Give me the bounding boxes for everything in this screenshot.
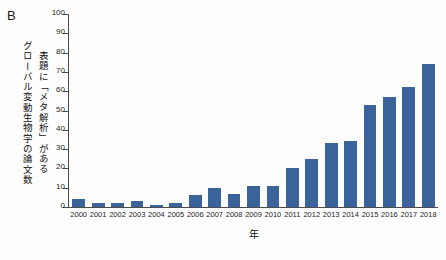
x-tick-label: 2014: [341, 210, 360, 219]
bar: [111, 203, 124, 207]
bar: [247, 186, 260, 207]
bar-slot: [224, 14, 243, 207]
bar: [422, 64, 435, 207]
x-tick-label: 2016: [380, 210, 399, 219]
bar-series: [69, 14, 438, 207]
y-tick-label: 0: [43, 201, 65, 210]
y-tick: 0: [68, 207, 69, 208]
bar-slot: [360, 14, 379, 207]
bar: [344, 141, 357, 207]
bar: [228, 194, 241, 208]
plot-area: 0102030405060708090100: [68, 14, 438, 208]
x-tick-label: 2001: [88, 210, 107, 219]
bar-slot: [419, 14, 438, 207]
y-axis-title-line-2: グローバル変動生物学の論文数: [19, 18, 35, 208]
y-tick-label: 100: [43, 8, 65, 17]
bar: [92, 203, 105, 207]
bar: [364, 105, 377, 207]
bar-slot: [147, 14, 166, 207]
x-tick-label: 2006: [186, 210, 205, 219]
x-axis-title: 年: [69, 226, 438, 241]
bar-slot: [302, 14, 321, 207]
x-tick-label: 2008: [224, 210, 243, 219]
y-tick-label: 70: [43, 66, 65, 75]
y-tick-label: 60: [43, 85, 65, 94]
bar-slot: [186, 14, 205, 207]
x-tick-label: 2002: [108, 210, 127, 219]
figure-panel-b: B 表題に「メタ解析」がある グローバル変動生物学の論文数 0102030405…: [0, 0, 446, 260]
bar: [402, 87, 415, 207]
y-tick-label: 20: [43, 162, 65, 171]
x-tick-label: 2017: [399, 210, 418, 219]
x-tick-label: 2009: [244, 210, 263, 219]
x-tick-label: 2000: [69, 210, 88, 219]
bar-slot: [283, 14, 302, 207]
x-tick-label: 2003: [127, 210, 146, 219]
bar: [150, 205, 163, 207]
bar: [267, 186, 280, 207]
x-axis-line: [68, 207, 438, 208]
bar: [169, 203, 182, 207]
bar-slot: [127, 14, 146, 207]
bar: [208, 188, 221, 207]
bar-slot: [88, 14, 107, 207]
bar: [131, 201, 144, 207]
bar: [72, 199, 85, 207]
x-tick-label: 2013: [321, 210, 340, 219]
y-tick-label: 80: [43, 47, 65, 56]
y-tick-label: 50: [43, 105, 65, 114]
x-tick-label: 2007: [205, 210, 224, 219]
bar: [286, 168, 299, 207]
panel-label: B: [7, 8, 16, 23]
bar-slot: [321, 14, 340, 207]
bar-slot: [244, 14, 263, 207]
bar-slot: [341, 14, 360, 207]
bar-slot: [166, 14, 185, 207]
y-tick-label: 30: [43, 143, 65, 152]
bar: [325, 143, 338, 207]
bar-slot: [263, 14, 282, 207]
bar: [383, 97, 396, 207]
x-tick-label: 2018: [419, 210, 438, 219]
bar-slot: [205, 14, 224, 207]
bar: [189, 195, 202, 207]
x-tick-label: 2004: [147, 210, 166, 219]
bar-slot: [380, 14, 399, 207]
x-tick-label: 2015: [360, 210, 379, 219]
bar-slot: [69, 14, 88, 207]
x-tick-label: 2011: [283, 210, 302, 219]
x-tick-label: 2010: [263, 210, 282, 219]
y-tick-label: 90: [43, 27, 65, 36]
bar: [305, 159, 318, 207]
x-tick-label: 2005: [166, 210, 185, 219]
bar-slot: [108, 14, 127, 207]
y-tick-label: 10: [43, 182, 65, 191]
x-axis-ticks: 2000200120022003200420052006200720082009…: [69, 210, 438, 219]
y-tick-label: 40: [43, 124, 65, 133]
bar-slot: [399, 14, 418, 207]
x-tick-label: 2012: [302, 210, 321, 219]
